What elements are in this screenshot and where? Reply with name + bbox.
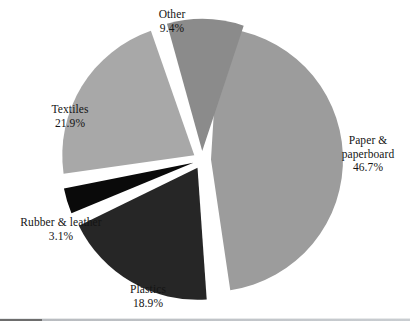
pie-slices-group xyxy=(62,19,343,300)
slice-value-textiles: 21.9% xyxy=(22,117,118,131)
slice-label-other: Other 9.4% xyxy=(126,8,218,35)
slice-label-paper: Paper & paperboard 46.7% xyxy=(326,134,410,175)
slice-label-paper-line1: Paper & xyxy=(326,134,410,148)
pie-chart: Paper & paperboard 46.7% Plastics 18.9% … xyxy=(0,0,410,326)
slice-label-textiles-name: Textiles xyxy=(22,103,118,117)
slice-label-rubber-name: Rubber & leather xyxy=(0,216,122,230)
slice-label-textiles: Textiles 21.9% xyxy=(22,103,118,130)
bottom-divider xyxy=(0,319,410,321)
slice-value-other: 9.4% xyxy=(126,22,218,36)
slice-value-plastics: 18.9% xyxy=(99,297,197,311)
pie-slice-paper[interactable] xyxy=(211,28,343,290)
slice-value-rubber: 3.1% xyxy=(0,230,122,244)
slice-value-paper: 46.7% xyxy=(326,161,410,175)
slice-label-other-name: Other xyxy=(126,8,218,22)
slice-label-rubber: Rubber & leather 3.1% xyxy=(0,216,122,243)
slice-label-plastics: Plastics 18.9% xyxy=(99,283,197,310)
slice-label-paper-line2: paperboard xyxy=(326,148,410,162)
slice-label-plastics-name: Plastics xyxy=(99,283,197,297)
